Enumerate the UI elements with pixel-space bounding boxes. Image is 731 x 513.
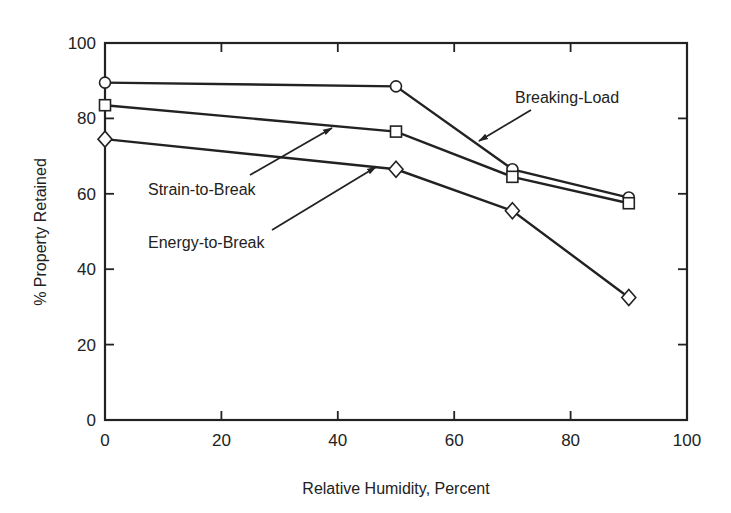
annotations: Breaking-LoadStrain-to-BreakEnergy-to-Br… [148, 89, 619, 251]
y-axis-title: % Property Retained [32, 158, 49, 306]
y-tick-label: 60 [77, 185, 96, 204]
circle-marker [391, 81, 402, 92]
x-tick-label: 40 [328, 431, 347, 450]
x-tick-label: 60 [445, 431, 464, 450]
annotation-label: Strain-to-Break [148, 181, 257, 198]
circle-marker [100, 77, 111, 88]
y-tick-label: 20 [77, 336, 96, 355]
y-tick-label: 0 [87, 411, 96, 430]
y-tick-label: 80 [77, 109, 96, 128]
square-marker [100, 100, 111, 111]
square-marker [507, 171, 518, 182]
annotation-arrow-icon [272, 167, 376, 230]
diamond-marker [389, 161, 403, 177]
annotation-arrow-icon [250, 128, 332, 175]
annotation-label: Breaking-Load [515, 89, 619, 106]
y-tick-label: 100 [68, 34, 96, 53]
x-axis-title: Relative Humidity, Percent [302, 480, 490, 497]
diamond-marker [505, 203, 519, 219]
square-marker [623, 198, 634, 209]
series-line-energy-to-break [105, 139, 629, 297]
x-tick-label: 100 [673, 431, 701, 450]
x-tick-label: 80 [561, 431, 580, 450]
x-tick-label: 20 [212, 431, 231, 450]
y-tick-label: 40 [77, 260, 96, 279]
line-chart: 020406080100020406080100 Breaking-LoadSt… [0, 0, 731, 513]
square-marker [391, 126, 402, 137]
annotation-arrow-icon [479, 110, 531, 141]
x-tick-label: 0 [100, 431, 109, 450]
annotation-label: Energy-to-Break [148, 234, 265, 251]
diamond-marker [622, 289, 636, 305]
diamond-marker [98, 131, 112, 147]
